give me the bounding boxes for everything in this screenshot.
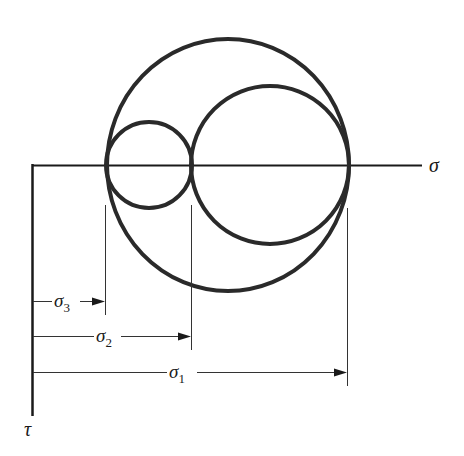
dimension-sigma1: σ1 [33, 361, 347, 386]
mohr-circle-diagram: σ3 σ2 σ1 σ τ [0, 0, 464, 456]
arrowhead-icon [178, 333, 191, 341]
dimension-sigma3: σ3 [33, 290, 105, 315]
label-sigma1: σ1 [169, 361, 185, 386]
sigma-axis-label: σ [429, 154, 440, 176]
dimension-sigma2: σ2 [33, 325, 191, 350]
arrowhead-icon [92, 298, 105, 306]
arrowhead-icon [334, 369, 347, 377]
label-sigma2: σ2 [96, 325, 112, 350]
label-sigma3: σ3 [54, 290, 70, 315]
tau-axis-label: τ [24, 418, 32, 440]
